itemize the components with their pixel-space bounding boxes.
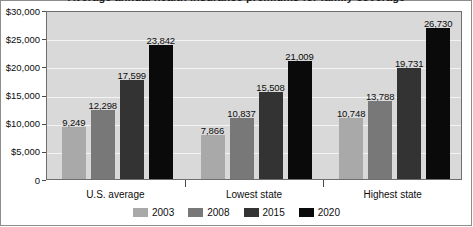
x-axis-separator (185, 180, 186, 187)
legend-item: 2020 (299, 207, 340, 218)
bar-value-label: 26,730 (409, 18, 467, 29)
x-axis-category-label: U.S. average (46, 189, 185, 200)
legend-label: 2020 (318, 207, 340, 218)
legend-item: 2015 (244, 207, 285, 218)
bar-value-label: 21,009 (271, 51, 329, 62)
plot-area: 9,24912,29817,59923,8427,86610,83715,508… (46, 11, 462, 180)
legend-swatch (188, 208, 203, 217)
legend-item: 2003 (133, 207, 174, 218)
bar (397, 68, 421, 179)
legend-label: 2015 (263, 207, 285, 218)
chart-figure: Average annual health insurance premiums… (0, 0, 473, 227)
bar (230, 118, 254, 179)
chart-legend: 2003200820152020 (0, 204, 473, 220)
x-axis: U.S. averageLowest stateHighest state (46, 180, 462, 206)
bar (339, 118, 363, 179)
legend-swatch (299, 208, 314, 217)
legend-item: 2008 (188, 207, 229, 218)
legend-swatch (133, 208, 148, 217)
legend-swatch (244, 208, 259, 217)
chart-title: Average annual health insurance premiums… (0, 0, 473, 3)
bar (288, 61, 312, 179)
x-axis-category-label: Lowest state (185, 189, 324, 200)
bar (259, 92, 283, 179)
bar (368, 101, 392, 179)
y-axis-tick-label: $10,000 (6, 118, 40, 129)
bar (149, 45, 173, 179)
x-axis-separator (323, 180, 324, 187)
bar (62, 127, 86, 179)
bar-value-label: 23,842 (132, 35, 190, 46)
y-axis-tick-label: 0 (35, 175, 40, 186)
legend-label: 2003 (152, 207, 174, 218)
y-axis-tick-label: $20,000 (6, 62, 40, 73)
y-axis-tick-label: $15,000 (6, 90, 40, 101)
y-axis-tick-label: $5,000 (11, 146, 40, 157)
y-axis: $30,000$25,000$20,000$15,000$10,000$5,00… (0, 0, 46, 191)
bar (91, 110, 115, 179)
y-axis-tick-label: $30,000 (6, 6, 40, 17)
bar (426, 28, 450, 179)
bar-series-container: 9,24912,29817,59923,8427,86610,83715,508… (47, 12, 461, 179)
y-axis-tick-label: $25,000 (6, 34, 40, 45)
x-axis-category-label: Highest state (323, 189, 462, 200)
legend-label: 2008 (207, 207, 229, 218)
bar (201, 135, 225, 179)
bar (120, 80, 144, 179)
